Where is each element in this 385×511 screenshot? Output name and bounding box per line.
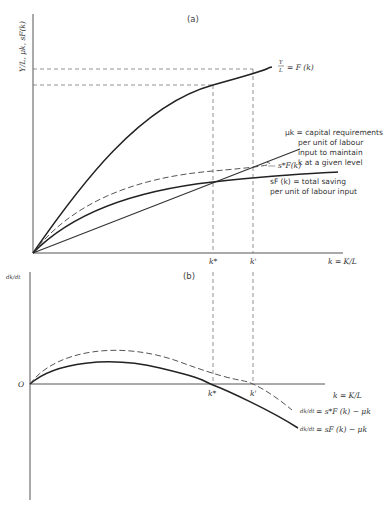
svg-text:per unit of labour input: per unit of labour input — [270, 187, 357, 196]
s-growth-label-frac: dk/dt — [300, 426, 315, 432]
panel-b: (b) dk/dt O k* k' k = K/L dk/dt = s*F (k… — [6, 271, 371, 500]
panel-b-tick-k-prime: k' — [250, 389, 257, 398]
svg-text:sF (k) = total saving: sF (k) = total saving — [270, 177, 346, 186]
s-growth-label: = sF (k) − μk — [316, 425, 367, 434]
svg-text:k at a given level: k at a given level — [298, 158, 363, 167]
saving-label: sF (k) = total saving per unit of labour… — [270, 177, 357, 196]
panel-b-x-axis-label: k = K/L — [333, 391, 362, 400]
panel-b-tick-k-star: k* — [208, 389, 217, 398]
production-label-den: L — [278, 67, 283, 73]
panel-a-y-axis-label: Y/L, μk, sF(k) — [18, 21, 27, 72]
panel-a-tick-k-star: k* — [209, 257, 218, 266]
panel-a-x-axis-label: k = K/L — [328, 257, 357, 266]
panel-a: (a) Y/L, μk, sF(k) Y L = F (k) — s*F(k) … — [18, 14, 383, 266]
panel-a-tick-k-prime: k' — [250, 257, 257, 266]
panel-b-label: (b) — [183, 271, 195, 281]
s-star-growth-label-frac: dk/dt — [300, 408, 315, 414]
svg-text:per unit of labour: per unit of labour — [298, 138, 364, 147]
s-star-growth-label: = s*F (k) − μk — [316, 407, 371, 416]
s-growth-curve — [30, 362, 298, 428]
svg-text:μk = capital requirements: μk = capital requirements — [285, 128, 383, 137]
panel-a-label: (a) — [187, 14, 199, 24]
s-star-label: — s*F(k) — [268, 161, 301, 170]
solow-growth-diagram: (a) Y/L, μk, sF(k) Y L = F (k) — s*F(k) … — [0, 0, 385, 511]
svg-text:input to maintain: input to maintain — [298, 148, 363, 157]
production-label-num: Y — [279, 59, 284, 65]
production-label-rest: = F (k) — [287, 63, 314, 72]
panel-b-y-axis-label: dk/dt — [6, 274, 21, 280]
capital-requirements-line — [33, 149, 300, 253]
capital-requirements-label: μk = capital requirements per unit of la… — [285, 128, 383, 167]
panel-b-origin-label: O — [18, 380, 24, 389]
